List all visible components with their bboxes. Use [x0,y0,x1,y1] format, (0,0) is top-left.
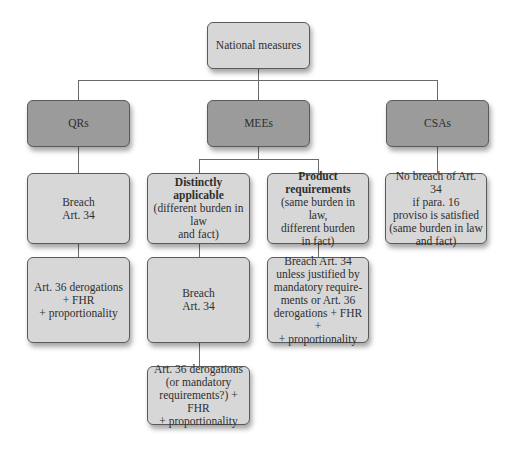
connector-to-mees [258,80,259,100]
product-breach-line-2: unless justified by [276,268,360,281]
product-breach-box: Breach Art. 34 unless justified by manda… [267,257,369,343]
distinct-breach-line-2: Art. 34 [182,300,215,313]
distinctly-applicable-title-1: Distinctly [175,176,222,189]
mees-label: MEEs [244,117,273,130]
qrs-breach-line-1: Breach [62,196,95,209]
connector-mees-split [199,159,319,160]
product-requirements-desc-3: in fact) [302,235,335,248]
csas-no-breach-line-2: if para. 16 [413,196,460,209]
connector-root-down [258,69,259,80]
product-breach-line-6: + proportionality [279,333,357,346]
csas-no-breach-line-1: No breach of Art. 34 [389,170,483,196]
connector-distinct-l2 [199,244,200,257]
qrs-derogations-line-2: + FHR [63,294,95,307]
qrs-derogations-box: Art. 36 derogations + FHR + proportional… [27,257,130,343]
product-requirements-desc-2: different burden [281,222,355,235]
qrs-derogations-line-1: Art. 36 derogations [34,281,123,294]
connector-to-csas [437,80,438,100]
national-measures-label: National measures [216,39,301,52]
distinct-breach-box: Breach Art. 34 [147,257,250,343]
connector-to-qrs [78,80,79,100]
qrs-box: QRs [27,100,130,147]
product-breach-line-4: ments or Art. 36 [281,294,356,307]
csas-label: CSAs [424,117,451,130]
distinctly-applicable-box: Distinctly applicable (different burden … [147,173,250,244]
connector-mees-down [258,147,259,159]
csas-box: CSAs [386,100,489,147]
csas-no-breach-box: No breach of Art. 34 if para. 16 proviso… [385,173,487,244]
connector-qrs-l1-l2 [78,244,79,257]
distinct-derogations-line-2: (or mandatory [166,376,231,389]
connector-to-distinct [199,159,200,173]
distinct-breach-line-1: Breach [182,287,215,300]
mees-box: MEEs [207,100,310,147]
csas-no-breach-line-5: and fact) [416,235,457,248]
product-requirements-title-1: Product [298,170,337,183]
qrs-breach-line-2: Art. 34 [62,209,95,222]
product-breach-line-3: mandatory require- [274,281,362,294]
distinctly-applicable-desc-2: and fact) [178,228,219,241]
connector-qrs-down [78,147,79,173]
csas-no-breach-line-4: (same burden in law [389,222,483,235]
distinctly-applicable-desc-1: (different burden in law [151,202,246,228]
distinctly-applicable-title-2: applicable [173,189,223,202]
distinct-derogations-line-1: Art. 36 derogations [154,363,243,376]
distinct-derogations-line-4: + proportionality [159,415,237,428]
product-breach-line-5: derogations + FHR + [271,307,365,333]
national-measures-box: National measures [207,22,310,69]
product-requirements-title-2: requirements [285,183,350,196]
product-breach-line-1: Breach Art. 34 [284,255,351,268]
qrs-breach-box: Breach Art. 34 [27,173,130,244]
qrs-label: QRs [68,117,88,130]
csas-no-breach-line-3: proviso is satisfied [393,209,479,222]
distinct-derogations-box: Art. 36 derogations (or mandatory requir… [147,366,250,425]
qrs-derogations-line-3: + proportionality [39,307,117,320]
product-requirements-box: Product requirements (same burden in law… [267,173,369,244]
distinct-derogations-line-3: requirements?) + FHR [151,389,246,415]
product-requirements-desc-1: (same burden in law, [271,196,365,222]
